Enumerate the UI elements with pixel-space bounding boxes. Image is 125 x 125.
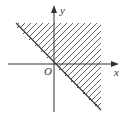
y-axis-label: y bbox=[59, 4, 65, 16]
y-axis-arrow-icon bbox=[51, 5, 57, 13]
inequality-diagram: x y O bbox=[0, 0, 125, 125]
boundary-line bbox=[16, 23, 101, 110]
shaded-region bbox=[0, 23, 125, 110]
x-axis-label: x bbox=[113, 66, 119, 78]
origin-label: O bbox=[44, 65, 52, 77]
